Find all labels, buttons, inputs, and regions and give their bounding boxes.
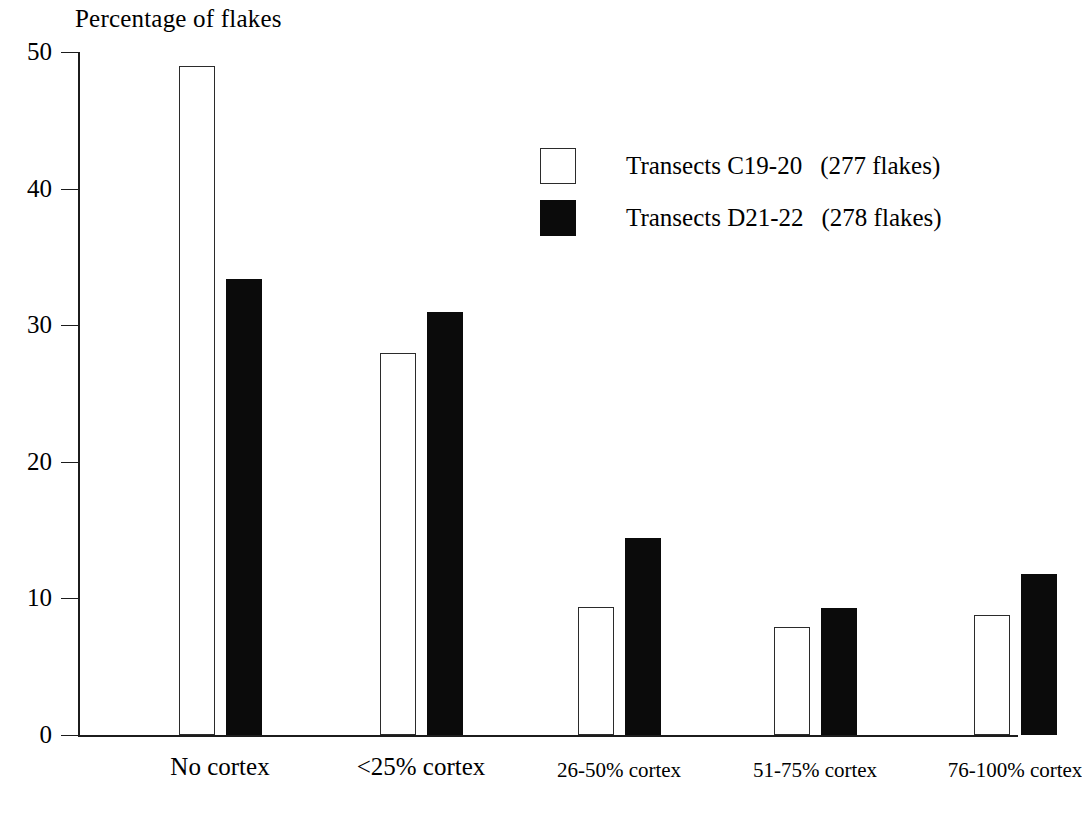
chart-legend: Transects C19-20(277 flakes)Transects D2… [540, 140, 942, 244]
bar [380, 353, 416, 735]
x-axis-category-label: No cortex [170, 755, 269, 779]
y-axis-tick: 10 [61, 598, 78, 599]
bar [821, 608, 857, 735]
legend-series-label: Transects D21-22 [626, 204, 804, 232]
bar [625, 538, 661, 735]
bar [974, 615, 1010, 735]
x-axis-category-label: <25% cortex [357, 755, 486, 779]
bar [1021, 574, 1057, 735]
x-axis-line [78, 735, 1018, 737]
y-axis-line [78, 52, 80, 735]
y-axis-tick-label: 20 [27, 449, 52, 474]
x-axis-category-label: 51-75% cortex [753, 758, 877, 782]
x-axis-category-label: 76-100% cortex [948, 758, 1082, 782]
y-axis-tick: 20 [61, 462, 78, 463]
y-axis-tick-label: 30 [27, 312, 52, 337]
x-axis-category-label: 26-50% cortex [557, 758, 681, 782]
legend-series-count: (277 flakes) [820, 152, 940, 180]
bar [427, 312, 463, 735]
y-axis-tick-label: 50 [27, 39, 52, 64]
y-axis-tick: 40 [61, 189, 78, 190]
chart-title: Percentage of flakes [75, 4, 282, 34]
bar [226, 279, 262, 735]
legend-item: Transects D21-22(278 flakes) [540, 192, 942, 244]
y-axis-tick: 30 [61, 325, 78, 326]
legend-swatch-icon [540, 200, 576, 236]
bar [179, 66, 215, 735]
legend-series-count: (278 flakes) [822, 204, 942, 232]
bar [774, 627, 810, 735]
y-axis-tick-label: 10 [27, 585, 52, 610]
y-axis-tick-label: 0 [40, 722, 53, 747]
legend-series-label: Transects C19-20 [626, 152, 802, 180]
y-axis-tick: 0 [61, 735, 78, 736]
y-axis-tick: 50 [61, 52, 78, 53]
bar [578, 607, 614, 735]
y-axis-tick-label: 40 [27, 176, 52, 201]
legend-swatch-icon [540, 148, 576, 184]
legend-item: Transects C19-20(277 flakes) [540, 140, 942, 192]
